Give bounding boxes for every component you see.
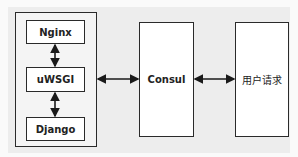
connector-arrows (0, 0, 298, 157)
